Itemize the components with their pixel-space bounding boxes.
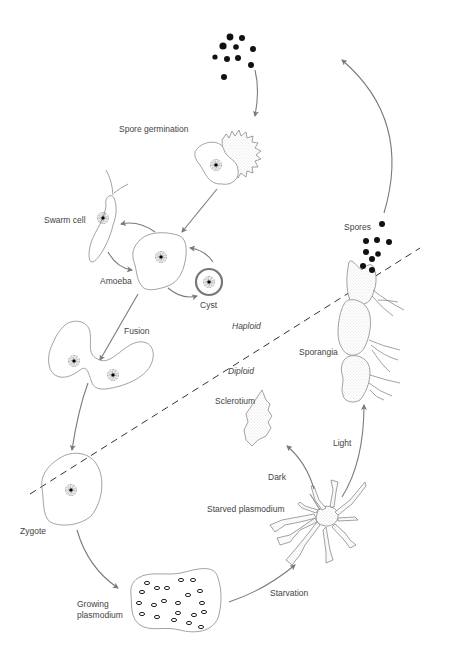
zygote-drawing	[42, 453, 102, 525]
label-starved-plasmodium: Starved plasmodium	[207, 504, 284, 514]
arrow-starved-to-sclerotium	[287, 446, 314, 489]
label-plasmodium: plasmodium	[77, 610, 123, 620]
label-growing: Growing	[77, 599, 109, 609]
spore-germination-drawing	[195, 130, 261, 184]
amoeba-drawing	[133, 233, 186, 290]
arrow-spores-to-germination	[255, 70, 258, 116]
arrow-starved-to-sporangia	[342, 405, 364, 497]
label-cyst: Cyst	[200, 300, 218, 310]
swarm-cell-drawing	[89, 170, 128, 262]
arrow-swarm-to-amoeba	[108, 252, 132, 270]
label-diploid: Diploid	[228, 366, 254, 376]
cyst-drawing	[196, 269, 222, 295]
label-spores: Spores	[344, 222, 371, 232]
arrow-germination-to-amoeba	[182, 189, 217, 232]
label-light: Light	[333, 438, 352, 448]
label-fusion: Fusion	[124, 326, 150, 336]
label-spore-germination: Spore germination	[119, 124, 189, 134]
label-sporangia: Sporangia	[299, 347, 338, 357]
label-haploid: Haploid	[232, 321, 261, 331]
label-starvation: Starvation	[270, 588, 309, 598]
label-amoeba: Amoeba	[100, 276, 132, 286]
arrow-zygote-to-growing	[77, 530, 118, 588]
slime-mold-life-cycle-diagram: Spore germination Swarm cell Amoeba Cyst…	[0, 0, 450, 660]
label-dark: Dark	[268, 472, 287, 482]
label-zygote: Zygote	[20, 526, 46, 536]
arrow-cyst-to-amoeba	[190, 248, 213, 262]
sporangia-drawing	[338, 261, 404, 402]
starved-plasmodium-drawing	[270, 480, 366, 565]
arrow-spores-to-top	[342, 60, 392, 213]
arrow-amoeba-to-cyst	[168, 288, 197, 297]
arrow-amoeba-to-swarm	[121, 223, 155, 232]
label-sclerotium: Sclerotium	[215, 396, 255, 406]
arrow-fusion-to-zygote	[72, 383, 88, 450]
label-swarm-cell: Swarm cell	[44, 215, 86, 225]
growing-plasmodium-drawing	[131, 569, 221, 632]
spores-cluster-top	[212, 34, 256, 80]
